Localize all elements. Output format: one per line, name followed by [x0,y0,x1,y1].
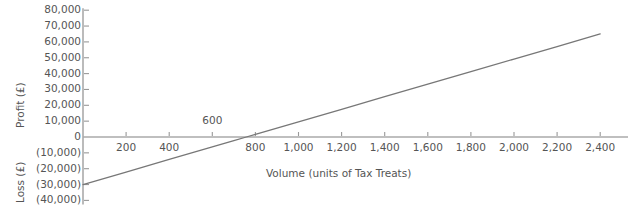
y-axis-tick-label: (10,000) [0,146,81,158]
x-axis-title: Volume (units of Tax Treats) [266,167,411,179]
chart-plot-area [0,0,628,221]
x-axis-tick-label: 2,400 [575,141,625,153]
y-axis-title-profit: Profit (£) [14,82,26,128]
y-axis-tick-label: 30,000 [0,82,81,94]
y-axis-tick-label: 60,000 [0,35,81,47]
y-axis-tick-label: 40,000 [0,67,81,79]
y-axis-tick-label: 50,000 [0,51,81,63]
y-axis-title-loss: Loss (£) [14,162,26,203]
break-even-chart: 80,00070,00060,00050,00040,00030,00020,0… [0,0,628,221]
y-axis-tick-label: (30,000) [0,178,81,190]
y-axis-tick-label: (20,000) [0,162,81,174]
series-line-profit [83,34,600,185]
y-axis-tick-label: (40,000) [0,193,81,205]
y-axis-tick-label: 20,000 [0,98,81,110]
x-axis-tick-label: 600 [187,114,237,126]
x-axis-tick-label: 400 [144,141,194,153]
y-axis-tick-label: 70,000 [0,19,81,31]
y-axis-tick-label: 0 [0,130,81,142]
y-axis-tick-label: 10,000 [0,114,81,126]
y-axis-tick-label: 80,000 [0,3,81,15]
